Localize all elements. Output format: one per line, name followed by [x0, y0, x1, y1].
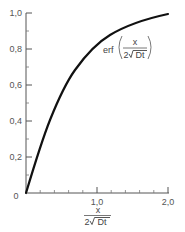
erf-curve — [26, 14, 168, 193]
x-tick-label-2-0: 2,0 — [162, 197, 175, 207]
x-axis-label-den-dt: Dt — [98, 217, 107, 227]
annotation-den-2: 2 — [123, 50, 128, 60]
y-tick-label-0-4: 0,4 — [9, 116, 22, 126]
origin-label: 0 — [13, 191, 18, 201]
x-axis-label-numerator: x — [96, 205, 101, 215]
annotation-erf: erf — [103, 45, 114, 55]
x-major-ticks — [97, 187, 168, 193]
x-axis-label: x 2 Dt — [84, 205, 111, 227]
y-tick-label-1-0: 1,0 — [9, 8, 22, 18]
right-paren-icon — [148, 36, 151, 59]
y-tick-label-0-8: 0,8 — [9, 44, 22, 54]
y-major-ticks — [26, 13, 32, 157]
annotation-numerator: x — [133, 37, 138, 47]
annotation-den-dt: Dt — [136, 50, 145, 60]
y-tick-label-0-2: 0,2 — [9, 152, 22, 162]
curve-annotation: erf x 2 Dt — [103, 36, 151, 60]
erf-chart: 1,0 0,8 0,6 0,4 0,2 0 1,0 2,0 x 2 Dt erf… — [0, 0, 185, 232]
y-tick-label-0-6: 0,6 — [9, 80, 22, 90]
x-axis-label-den-2: 2 — [84, 217, 89, 227]
left-paren-icon — [119, 36, 122, 59]
